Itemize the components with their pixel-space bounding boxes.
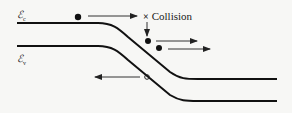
collision-x-icon: ×	[143, 11, 149, 22]
collision-label: ×Collision	[143, 11, 192, 22]
electron-icon	[156, 45, 162, 51]
conduction-band-label: ℰc	[17, 10, 26, 22]
band-diagram: ℰc ℰv ×Collision	[0, 0, 292, 113]
valence-band-edge	[17, 46, 277, 101]
valence-band-label: ℰv	[17, 54, 26, 66]
electron-icon	[75, 14, 81, 20]
electron-icon	[145, 38, 151, 44]
